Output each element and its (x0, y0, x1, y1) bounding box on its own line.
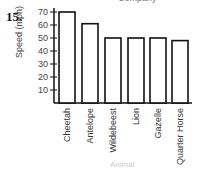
x-category-label: Cheetah (62, 108, 72, 142)
bar-cheetah (59, 12, 75, 103)
x-category-label: Gazelle (153, 108, 163, 139)
x-category-label: Lion (131, 108, 141, 125)
y-tick-label: 50 (38, 33, 48, 43)
bar-quarter-horse (172, 41, 188, 103)
x-category-label: Quarter Horse (175, 108, 185, 165)
bar-lion (128, 38, 144, 103)
x-category-label: Antelope (85, 108, 95, 144)
y-tick-label: 60 (38, 20, 48, 30)
x-category-label: Wildebeest (108, 108, 118, 153)
bar-chart: 10203040506070CheetahAntelopeWildebeestL… (0, 0, 198, 172)
bar-wildebeest (105, 38, 121, 103)
y-tick-label: 20 (38, 72, 48, 82)
y-tick-label: 30 (38, 59, 48, 69)
y-tick-label: 40 (38, 46, 48, 56)
y-tick-label: 70 (38, 7, 48, 17)
bar-gazelle (150, 38, 166, 103)
bar-antelope (82, 24, 98, 103)
y-tick-label: 10 (38, 85, 48, 95)
